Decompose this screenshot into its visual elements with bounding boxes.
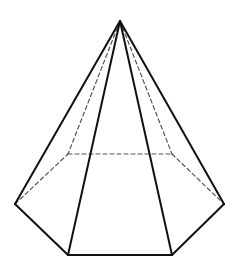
hexagonal-pyramid-diagram [0, 0, 236, 273]
background [0, 0, 236, 273]
